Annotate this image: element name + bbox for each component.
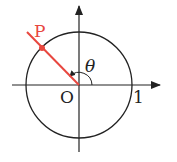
origin-label: O	[60, 89, 74, 106]
point-p-label: P	[34, 23, 45, 40]
unit-circle-diagram: P θ O 1	[0, 0, 177, 162]
angle-theta-label: θ	[85, 58, 95, 75]
point-p	[39, 45, 45, 51]
unit-label: 1	[133, 89, 144, 106]
diagram-svg	[0, 0, 177, 162]
